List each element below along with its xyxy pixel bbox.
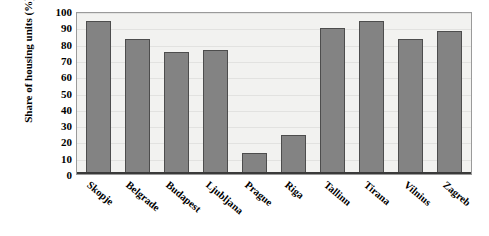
x-tick-label-tallinn: Tallinn — [322, 179, 353, 208]
bar-slot — [79, 13, 118, 174]
bar-slot — [430, 13, 469, 174]
y-tick-label: 50 — [40, 88, 72, 100]
x-tick-label-prague: Prague — [243, 179, 275, 208]
y-axis-tick-labels: 0102030405060708090100 — [40, 6, 72, 181]
y-tick-label: 40 — [40, 104, 72, 116]
x-tick-label-zagreb: Zagreb — [441, 179, 473, 208]
bar[interactable] — [164, 52, 189, 174]
bar[interactable] — [320, 28, 345, 175]
bar-slot — [274, 13, 313, 174]
y-tick-label: 30 — [40, 120, 72, 132]
x-tick-label-tirana: Tirana — [362, 179, 393, 207]
x-label-slot: Budapest — [155, 177, 195, 236]
y-tick-label: 10 — [40, 153, 72, 165]
x-label-slot: Ljubljana — [195, 177, 235, 236]
x-tick-label-riga: Riga — [283, 179, 306, 201]
x-label-slot: Belgrade — [116, 177, 156, 236]
bar-slot — [391, 13, 430, 174]
y-tick-label: 0 — [40, 169, 72, 181]
y-tick-label: 100 — [40, 6, 72, 18]
bar[interactable] — [398, 39, 423, 174]
x-label-slot: Skopje — [76, 177, 116, 236]
x-label-slot: Zagreb — [432, 177, 472, 236]
x-label-slot: Riga — [274, 177, 314, 236]
bar[interactable] — [359, 21, 384, 174]
bar[interactable] — [86, 21, 111, 174]
x-tick-label-skopje: Skopje — [85, 179, 116, 207]
bar[interactable] — [203, 50, 228, 174]
x-axis-tick-labels: SkopjeBelgradeBudapestLjubljanaPragueRig… — [76, 177, 472, 236]
y-tick-label: 60 — [40, 71, 72, 83]
bar-slot — [235, 13, 274, 174]
x-label-slot: Vilnius — [393, 177, 433, 236]
bar[interactable] — [242, 153, 267, 174]
x-label-slot: Tallinn — [314, 177, 354, 236]
x-label-slot: Tirana — [353, 177, 393, 236]
bar-slot — [313, 13, 352, 174]
bar-slot — [118, 13, 157, 174]
bar[interactable] — [437, 31, 462, 174]
x-axis-baseline — [77, 172, 471, 174]
plot-area — [76, 12, 472, 175]
x-tick-label-vilnius: Vilnius — [401, 179, 432, 208]
bars-layer — [77, 13, 471, 174]
y-tick-label: 90 — [40, 22, 72, 34]
bar-slot — [157, 13, 196, 174]
bar-chart-figure: Share of housing units (%) 0102030405060… — [0, 0, 489, 236]
bar[interactable] — [125, 39, 150, 174]
bar[interactable] — [281, 135, 306, 174]
y-tick-label: 20 — [40, 136, 72, 148]
y-tick-label: 70 — [40, 55, 72, 67]
y-axis-title: Share of housing units (%) — [20, 0, 36, 140]
y-tick-label: 80 — [40, 39, 72, 51]
bar-slot — [196, 13, 235, 174]
x-label-slot: Prague — [234, 177, 274, 236]
bar-slot — [352, 13, 391, 174]
